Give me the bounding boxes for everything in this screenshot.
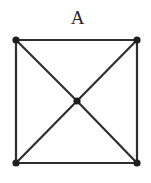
node-bottom-right — [133, 159, 140, 166]
node-top-right — [133, 36, 140, 43]
graph-diagram: A — [0, 0, 151, 183]
edge-top-right-center — [77, 40, 137, 101]
node-bottom-left — [12, 159, 19, 166]
edge-center-bottom-right — [77, 101, 137, 163]
node-center — [73, 97, 80, 104]
graph-label-a: A — [71, 7, 85, 28]
edge-top-left-center — [16, 40, 77, 101]
node-top-left — [12, 36, 19, 43]
edge-center-bottom-left — [16, 101, 77, 163]
